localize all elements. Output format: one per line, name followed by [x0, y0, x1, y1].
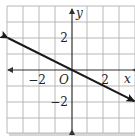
x-tick-label: −2 — [28, 73, 46, 87]
y-axis-label: y — [75, 6, 83, 20]
coordinate-plane: x y O −222−2 — [0, 0, 135, 137]
origin-label: O — [59, 73, 69, 87]
x-axis-label: x — [124, 72, 131, 86]
x-tick-label: 2 — [101, 73, 109, 87]
y-tick-label: −2 — [50, 95, 68, 109]
y-tick-label: 2 — [60, 31, 68, 45]
